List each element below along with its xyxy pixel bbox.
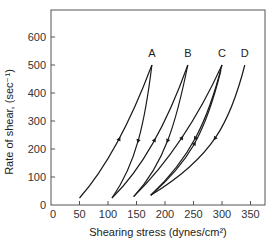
curve-label-a: A bbox=[148, 47, 156, 59]
rheogram-chart: 0100200300400500600 05010015020025030035… bbox=[0, 0, 276, 247]
x-tick-label: 0 bbox=[50, 208, 56, 220]
y-tick-label: 200 bbox=[28, 143, 46, 155]
x-tick-label: 300 bbox=[213, 208, 231, 220]
curve-a-down bbox=[112, 65, 152, 198]
y-tick-label: 100 bbox=[28, 171, 46, 183]
plot-frame bbox=[51, 10, 265, 205]
y-tick-label: 500 bbox=[28, 59, 46, 71]
hysteresis-curves bbox=[80, 65, 245, 198]
x-tick-label: 250 bbox=[184, 208, 202, 220]
x-tick-label: 150 bbox=[127, 208, 145, 220]
x-tick-label: 100 bbox=[99, 208, 117, 220]
x-tick-label: 350 bbox=[241, 208, 259, 220]
x-axis-ticks: 050100150200250300350 bbox=[50, 201, 260, 220]
curve-label-c: C bbox=[218, 47, 226, 59]
y-tick-label: 600 bbox=[28, 31, 46, 43]
curve-d-down bbox=[151, 65, 245, 195]
y-tick-label: 400 bbox=[28, 87, 46, 99]
curve-labels: ABCD bbox=[148, 47, 249, 59]
curve-label-d: D bbox=[241, 47, 249, 59]
x-axis-title: Shearing stress (dynes/cm²) bbox=[89, 226, 227, 238]
y-tick-label: 0 bbox=[40, 199, 46, 211]
curve-b-down bbox=[134, 65, 188, 197]
x-tick-label: 50 bbox=[73, 208, 85, 220]
y-axis-title: Rate of shear, (sec⁻¹) bbox=[3, 69, 15, 175]
y-tick-label: 300 bbox=[28, 115, 46, 127]
curve-label-b: B bbox=[184, 47, 191, 59]
x-tick-label: 200 bbox=[156, 208, 174, 220]
